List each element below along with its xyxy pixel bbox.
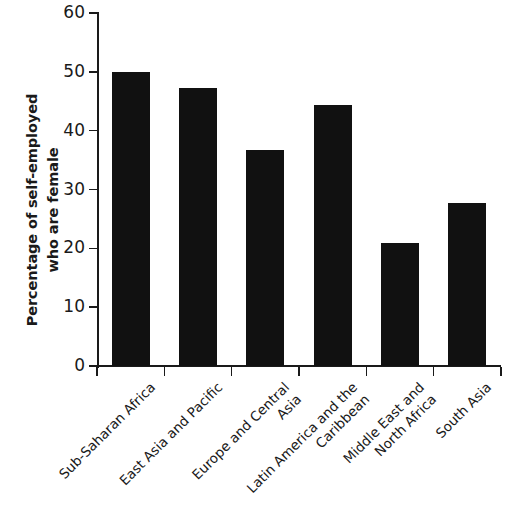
bar (112, 72, 150, 366)
y-tick-mark (89, 12, 97, 14)
x-tick-mark (433, 367, 435, 376)
y-tick-label: 60 (25, 4, 85, 21)
y-tick-mark (89, 306, 97, 308)
x-tick-mark (231, 367, 233, 376)
y-tick-label: 10 (25, 298, 85, 315)
bar (246, 150, 284, 366)
bar (314, 105, 352, 366)
y-tick-label: 30 (25, 181, 85, 198)
x-tick-mark (164, 367, 166, 376)
y-tick-label: 20 (25, 239, 85, 256)
x-tick-mark (298, 367, 300, 376)
x-tick-label-line: Sub-Saharan Africa (41, 379, 159, 497)
x-tick-mark (500, 367, 502, 376)
y-tick-mark (89, 130, 97, 132)
bar (179, 88, 217, 366)
y-axis-line (97, 12, 99, 368)
bar (381, 243, 419, 366)
y-tick-label: 40 (25, 122, 85, 139)
x-tick-mark (366, 367, 368, 376)
y-tick-label: 50 (25, 63, 85, 80)
x-tick-label: Sub-Saharan Africa (41, 379, 159, 497)
y-tick-mark (89, 189, 97, 191)
y-tick-mark (89, 71, 97, 73)
bar-chart: Percentage of self-employed who are fema… (0, 0, 508, 507)
bar (448, 203, 486, 366)
y-tick-mark (89, 248, 97, 250)
y-tick-label: 0 (25, 357, 85, 374)
x-tick-mark (96, 367, 98, 376)
